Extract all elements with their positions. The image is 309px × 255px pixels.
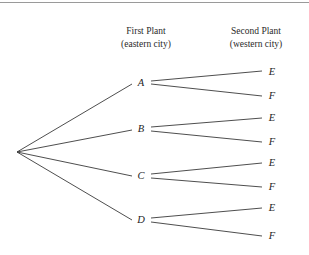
leaf-label-b-e: E [264,112,280,123]
header-second-line1: Second Plant [212,25,300,38]
node-label-a: A [133,77,149,88]
leaf-label-c-f: F [264,181,280,192]
edge-root-a [17,84,132,152]
leaf-label-c-e: E [264,157,280,168]
leaf-label-a-e: E [264,66,280,77]
node-label-b: B [133,123,149,134]
edge-b-f [151,131,262,142]
leaf-label-d-e: E [264,202,280,213]
edge-root-b [17,130,132,152]
node-label-c: C [133,170,149,181]
edge-a-f [151,84,262,96]
column-header-second-plant: Second Plant (western city) [212,25,300,50]
leaf-label-d-f: F [264,230,280,241]
node-label-d: D [133,214,149,225]
edge-d-e [151,208,262,218]
edge-a-e [151,71,262,81]
edge-b-e [151,118,262,127]
tree-diagram-figure: First Plant (eastern city) Second Plant … [0,0,309,255]
leaf-label-b-f: F [264,136,280,147]
edge-d-f [151,222,262,236]
edge-root-d [17,152,132,220]
header-second-line2: (western city) [212,38,300,51]
header-first-line2: (eastern city) [102,38,190,51]
edge-root-c [17,152,132,176]
edge-c-f [151,178,262,187]
header-first-line1: First Plant [102,25,190,38]
edge-c-e [151,163,262,174]
leaf-label-a-f: F [264,90,280,101]
column-header-first-plant: First Plant (eastern city) [102,25,190,50]
